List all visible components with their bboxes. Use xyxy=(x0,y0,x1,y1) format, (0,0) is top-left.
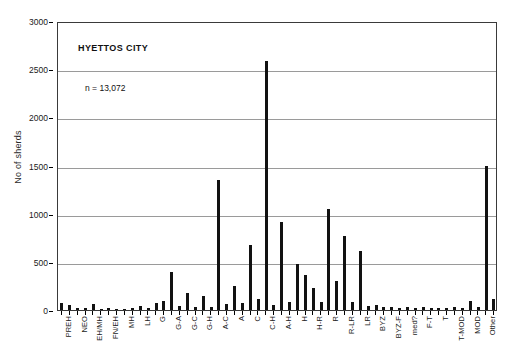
x-axis-tick-mark xyxy=(477,311,478,315)
x-axis-tick-mark xyxy=(124,311,125,315)
x-axis-tick-mark xyxy=(328,311,329,315)
bar xyxy=(492,299,495,310)
x-axis-tick-mark xyxy=(289,311,290,315)
y-axis-tick-mark xyxy=(49,167,53,168)
bar xyxy=(288,302,291,310)
x-axis-tick-label: Other xyxy=(488,316,497,335)
x-axis-tick-mark xyxy=(187,311,188,315)
x-axis-tick-labels: PREHNEOEH/MHFN/EHMHLHGG-AG-CG-HA-CACC-HA… xyxy=(57,316,497,362)
bar xyxy=(202,296,205,310)
x-axis-tick-mark xyxy=(195,311,196,315)
bar xyxy=(178,306,181,310)
x-axis-tick-mark xyxy=(485,311,486,315)
sample-size-annotation: n = 13,072 xyxy=(85,83,125,93)
x-axis-tick-label: MOD xyxy=(473,316,482,334)
bar xyxy=(241,303,244,310)
x-axis-tick-mark xyxy=(147,311,148,315)
x-axis-tick-label: EH/MH xyxy=(95,316,104,341)
bar xyxy=(107,308,110,310)
y-axis-tick-label: 3000 xyxy=(18,18,48,27)
bar xyxy=(225,304,228,310)
x-axis-tick-mark xyxy=(454,311,455,315)
x-axis-tick-label: H xyxy=(300,316,309,322)
bar-series xyxy=(58,23,496,310)
x-axis-tick-label: R xyxy=(331,316,340,322)
x-axis-tick-mark xyxy=(69,311,70,315)
x-axis-tick-mark xyxy=(446,311,447,315)
bar xyxy=(351,302,354,310)
x-axis-tick-mark xyxy=(116,311,117,315)
y-axis-tick-label: 500 xyxy=(18,259,48,268)
x-axis-tick-label: med? xyxy=(410,316,419,335)
bar xyxy=(272,305,275,310)
bar xyxy=(280,222,283,310)
y-axis-tick-labels: 050010001500200025003000 xyxy=(18,0,48,362)
x-axis-tick-mark xyxy=(171,311,172,315)
bar xyxy=(469,301,472,310)
bar xyxy=(477,307,480,310)
x-axis-tick-label: R-LR xyxy=(347,316,356,334)
x-axis-tick-mark xyxy=(108,311,109,315)
bar xyxy=(406,307,409,310)
y-axis-tick-label: 2000 xyxy=(18,114,48,123)
x-axis-tick-mark xyxy=(312,311,313,315)
x-axis-tick-label: PREH xyxy=(64,316,73,337)
bar xyxy=(327,209,330,310)
bar xyxy=(217,180,220,310)
bar xyxy=(265,61,268,310)
x-axis-tick-label: BYZ-F xyxy=(394,316,403,338)
bar xyxy=(162,301,165,310)
bar xyxy=(312,288,315,310)
bar xyxy=(343,236,346,310)
x-axis-tick-mark xyxy=(250,311,251,315)
x-axis-tick-mark xyxy=(344,311,345,315)
y-axis-tick-mark xyxy=(49,70,53,71)
x-axis-tick-mark xyxy=(360,311,361,315)
x-axis-tick-mark xyxy=(352,311,353,315)
x-axis-tick-label: G-C xyxy=(190,316,199,330)
y-axis-tick-mark xyxy=(49,263,53,264)
y-axis-tick-label: 1500 xyxy=(18,163,48,172)
x-axis-tick-label: T-MOD xyxy=(457,316,466,341)
x-axis-tick-mark xyxy=(470,311,471,315)
x-axis-tick-mark xyxy=(100,311,101,315)
bar xyxy=(186,293,189,310)
bar xyxy=(359,251,362,310)
x-axis-tick-mark xyxy=(391,311,392,315)
x-axis-tick-mark xyxy=(140,311,141,315)
x-axis-tick-mark xyxy=(399,311,400,315)
bar xyxy=(210,307,213,310)
bar xyxy=(100,309,103,310)
x-axis-tick-label: C-H xyxy=(268,316,277,330)
bar xyxy=(437,308,440,310)
x-axis-tick-label: G xyxy=(158,316,167,322)
bar xyxy=(398,308,401,310)
x-axis-tick-mark xyxy=(163,311,164,315)
x-axis-tick-mark xyxy=(336,311,337,315)
x-axis-tick-mark xyxy=(305,311,306,315)
bar xyxy=(445,308,448,310)
bar xyxy=(60,303,63,310)
x-axis-tick-mark xyxy=(61,311,62,315)
bar xyxy=(76,308,79,310)
bar xyxy=(257,299,260,310)
x-axis-tick-mark xyxy=(85,311,86,315)
x-axis-tick-mark xyxy=(155,311,156,315)
x-axis-tick-label: MH xyxy=(127,316,136,328)
x-axis-tick-mark xyxy=(430,311,431,315)
x-axis-tick-label: LR xyxy=(363,316,372,326)
bar xyxy=(139,306,142,310)
x-axis-tick-mark xyxy=(407,311,408,315)
bar xyxy=(390,307,393,310)
x-axis-tick-mark xyxy=(297,311,298,315)
bar xyxy=(68,305,71,310)
y-axis-tick-mark xyxy=(49,118,53,119)
x-axis-tick-mark xyxy=(273,311,274,315)
bar xyxy=(170,272,173,310)
bar xyxy=(485,166,488,311)
x-axis-tick-label: G-A xyxy=(174,316,183,330)
x-axis-tick-mark xyxy=(218,311,219,315)
bar xyxy=(304,275,307,310)
x-axis-tick-mark xyxy=(92,311,93,315)
y-axis-tick-label: 2500 xyxy=(18,66,48,75)
